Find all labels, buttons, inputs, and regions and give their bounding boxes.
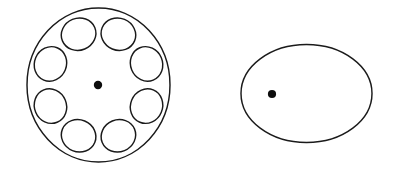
- canvas-background: [0, 0, 396, 172]
- flower-center-dot: [94, 81, 102, 89]
- figure-canvas: [0, 0, 396, 172]
- plain-offset-dot: [268, 90, 276, 98]
